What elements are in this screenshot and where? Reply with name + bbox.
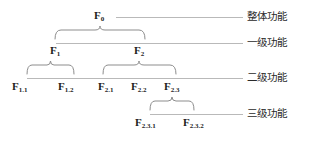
node-f1-2-sub: 1.2 (65, 86, 74, 94)
node-f2-3-2-sub: 2.3.2 (190, 122, 204, 130)
node-f2-2: F2.2 (131, 80, 146, 94)
node-f2-1-base: F (98, 80, 105, 92)
node-f0: F0 (94, 9, 104, 23)
brace-f2-to-level2 (102, 61, 177, 75)
tier-label-overall: 整体功能 (247, 10, 287, 23)
tier-rule-level2 (27, 78, 243, 79)
node-f1-base: F (50, 44, 57, 56)
brace-f0-to-level1 (54, 26, 146, 40)
node-f2-3-1: F2.3.1 (135, 116, 156, 130)
node-f2-3: F2.3 (164, 80, 179, 94)
node-f2-base: F (134, 44, 141, 56)
node-f2-2-base: F (131, 80, 138, 92)
node-f1: F1 (50, 44, 60, 58)
node-f2-sub: 2 (141, 50, 145, 58)
tier-rule-overall (116, 17, 243, 18)
node-f2-3-sub: 2.3 (171, 86, 180, 94)
node-f0-sub: 0 (101, 15, 105, 23)
tier-label-level1: 一级功能 (247, 36, 287, 49)
node-f1-2: F1.2 (58, 80, 73, 94)
node-f2-1-sub: 2.1 (105, 86, 114, 94)
node-f1-1-base: F (12, 80, 19, 92)
function-tree-diagram: F0 F1 F2 F1.1 F1.2 F2.1 F2.2 F2.3 F2.3.1… (0, 0, 313, 144)
tier-label-level2: 二级功能 (247, 71, 287, 84)
tier-rule-level3 (150, 114, 243, 115)
node-f0-base: F (94, 9, 101, 21)
node-f1-1-sub: 1.1 (19, 86, 28, 94)
brace-f23-to-level3 (149, 97, 195, 111)
node-f2-1: F2.1 (98, 80, 113, 94)
node-f2-2-sub: 2.2 (138, 86, 147, 94)
tier-label-level3: 三级功能 (247, 107, 287, 120)
node-f1-2-base: F (58, 80, 65, 92)
node-f1-1: F1.1 (12, 80, 27, 94)
node-f2-3-2-base: F (183, 116, 190, 128)
node-f2-3-2: F2.3.2 (183, 116, 204, 130)
node-f2-3-base: F (164, 80, 171, 92)
node-f1-sub: 1 (57, 50, 61, 58)
node-f2-3-1-sub: 2.3.1 (142, 122, 156, 130)
node-f2: F2 (134, 44, 144, 58)
brace-f1-to-level2 (26, 61, 75, 75)
node-f2-3-1-base: F (135, 116, 142, 128)
tier-rule-level1 (56, 43, 243, 44)
